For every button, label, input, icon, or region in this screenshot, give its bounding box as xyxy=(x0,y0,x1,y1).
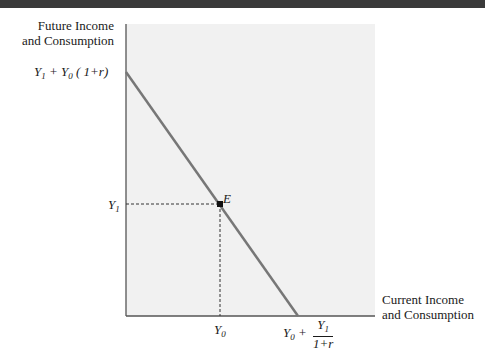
y-axis-label: Future Income and Consumption xyxy=(4,18,114,48)
x-intercept-fraction: Y1 1+r xyxy=(313,318,333,351)
y-intercept-paren: ( 1+r) xyxy=(76,64,108,79)
budget-line xyxy=(126,72,298,316)
y-axis-label-line2: and Consumption xyxy=(4,33,114,48)
x-axis-label-line1: Current Income xyxy=(382,292,485,307)
y1-sub: 1 xyxy=(115,204,120,214)
x-axis-label-line2: and Consumption xyxy=(382,307,485,322)
x-intercept-y0-sub: 0 xyxy=(290,332,295,342)
y-intercept-y0-sub: 0 xyxy=(68,71,73,81)
y0-sub: 0 xyxy=(221,329,226,339)
y0-tick-label: Y0 xyxy=(214,322,226,339)
y-intercept-label: Y1 + Y0 ( 1+r) xyxy=(34,64,108,81)
x-intercept-label: Y0 + Y1 1+r xyxy=(283,318,333,351)
numerator-sub: 1 xyxy=(325,324,330,334)
x-intercept-plus: + xyxy=(298,325,307,340)
y1-tick-label: Y1 xyxy=(108,197,120,214)
y-intercept-plus: + xyxy=(49,64,58,79)
point-e-label: E xyxy=(223,191,231,207)
fraction-numerator: Y1 xyxy=(313,318,333,337)
y-axis-label-line1: Future Income xyxy=(4,18,114,33)
numerator-y: Y xyxy=(317,317,324,332)
fraction-denominator: 1+r xyxy=(313,337,333,351)
x-axis-label: Current Income and Consumption xyxy=(382,292,485,322)
y-intercept-y-sub: 1 xyxy=(41,71,46,81)
